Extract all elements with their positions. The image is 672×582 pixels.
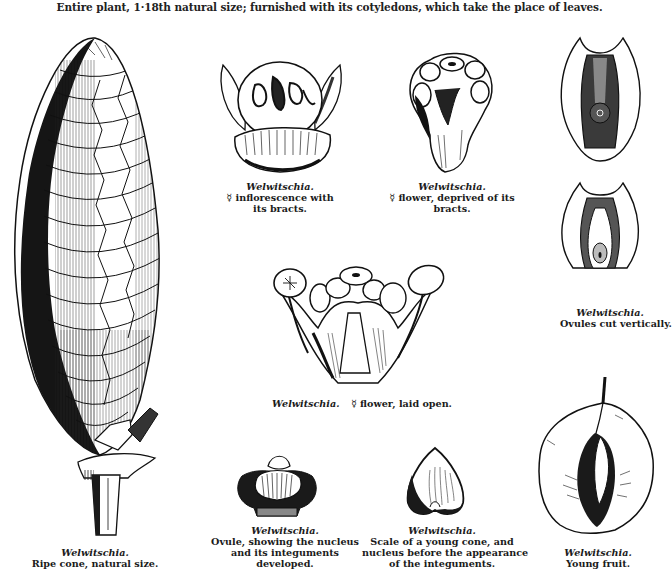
caption-line: Ovule, showing the nucleus — [205, 536, 365, 547]
caption-flower-deprived: Welwitschia. ☿ flower, deprived of its b… — [372, 181, 532, 214]
caption-cone-scale: Welwitschia. Scale of a young cone, and … — [362, 525, 522, 569]
caption-line: Scale of a young cone, and — [362, 536, 522, 547]
caption-line: its bracts. — [205, 203, 355, 214]
caption-line: ☿ flower, deprived of its — [372, 192, 532, 203]
cone-scale-illustration — [400, 445, 470, 520]
ovule-illustration — [232, 448, 322, 520]
caption-line: developed. — [205, 558, 365, 569]
caption-genus: Welwitschia. — [30, 547, 160, 558]
caption-line: Ovules cut vertically. — [560, 318, 660, 329]
flower-open-illustration — [268, 258, 448, 388]
figure-inflorescence — [215, 55, 345, 175]
figure-ovule — [232, 448, 322, 520]
inflorescence-illustration — [215, 55, 345, 175]
ovules-cut-illustration — [555, 33, 645, 273]
caption-line: bracts. — [372, 203, 532, 214]
caption-line: ☿ flower, laid open. — [351, 398, 452, 409]
figure-young-fruit — [535, 375, 660, 535]
flower-deprived-illustration — [400, 50, 500, 175]
figure-cone-scale — [400, 445, 470, 520]
page-header-caption: Entire plant, 1·18th natural size; furni… — [0, 1, 659, 13]
caption-flower-open: Welwitschia. ☿ flower, laid open. — [262, 398, 462, 409]
caption-genus: Welwitschia. — [205, 525, 365, 536]
caption-ripe-cone: Welwitschia. Ripe cone, natural size. — [30, 547, 160, 569]
caption-line: Young fruit. — [548, 558, 648, 569]
caption-genus: Welwitschia. — [372, 181, 532, 192]
figure-flower-open — [268, 258, 448, 388]
ripe-cone-illustration — [0, 30, 200, 540]
caption-inflorescence: Welwitschia. ☿ inflorescence with its br… — [205, 181, 355, 214]
figure-ripe-cone — [0, 30, 200, 540]
young-fruit-illustration — [535, 375, 660, 535]
caption-young-fruit: Welwitschia. Young fruit. — [548, 547, 648, 569]
caption-genus: Welwitschia. — [560, 307, 660, 318]
caption-ovule: Welwitschia. Ovule, showing the nucleus … — [205, 525, 365, 569]
caption-genus: Welwitschia. — [362, 525, 522, 536]
figure-ovules-cut — [555, 33, 645, 273]
caption-line: and its integuments — [205, 547, 365, 558]
caption-line: nucleus before the appearance — [362, 547, 522, 558]
caption-genus: Welwitschia. — [548, 547, 648, 558]
caption-genus: Welwitschia. — [272, 398, 340, 409]
caption-line: Ripe cone, natural size. — [30, 558, 160, 569]
caption-ovules-cut: Welwitschia. Ovules cut vertically. — [560, 307, 660, 329]
caption-line: ☿ inflorescence with — [205, 192, 355, 203]
caption-line: of the integuments. — [362, 558, 522, 569]
caption-genus: Welwitschia. — [205, 181, 355, 192]
figure-flower-deprived — [400, 50, 500, 175]
